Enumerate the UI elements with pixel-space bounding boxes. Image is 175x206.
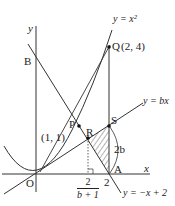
point-Q-label: Q (112, 41, 120, 52)
parabola-label: y = x² (113, 14, 137, 24)
fraction-numerator: 2 (77, 177, 99, 189)
point-Q-coord: (2, 4) (121, 41, 145, 52)
point-Q (107, 45, 111, 49)
tangent-point-label: (1, 1) (41, 132, 65, 143)
segment-2b-label: 2b (114, 144, 125, 155)
y-axis-label: y (28, 23, 33, 34)
point-S-label: S (111, 115, 117, 126)
point-P (77, 124, 81, 128)
line-bx-label: y = bx (143, 96, 169, 106)
point-B-label: B (24, 56, 31, 67)
fraction-2-over-b-plus-1: 2 b + 1 (77, 177, 99, 200)
right-angle-mark (88, 169, 93, 174)
point-R-label: R (86, 127, 93, 138)
tick-2-label: 2 (104, 177, 110, 188)
line-neg-label: y = −x + 2 (123, 188, 167, 198)
fraction-denominator: b + 1 (77, 189, 99, 200)
point-A-label: A (114, 164, 122, 175)
x-axis-label: x (144, 163, 149, 174)
origin-label: O (26, 178, 34, 189)
point-P-label: P (69, 119, 75, 130)
